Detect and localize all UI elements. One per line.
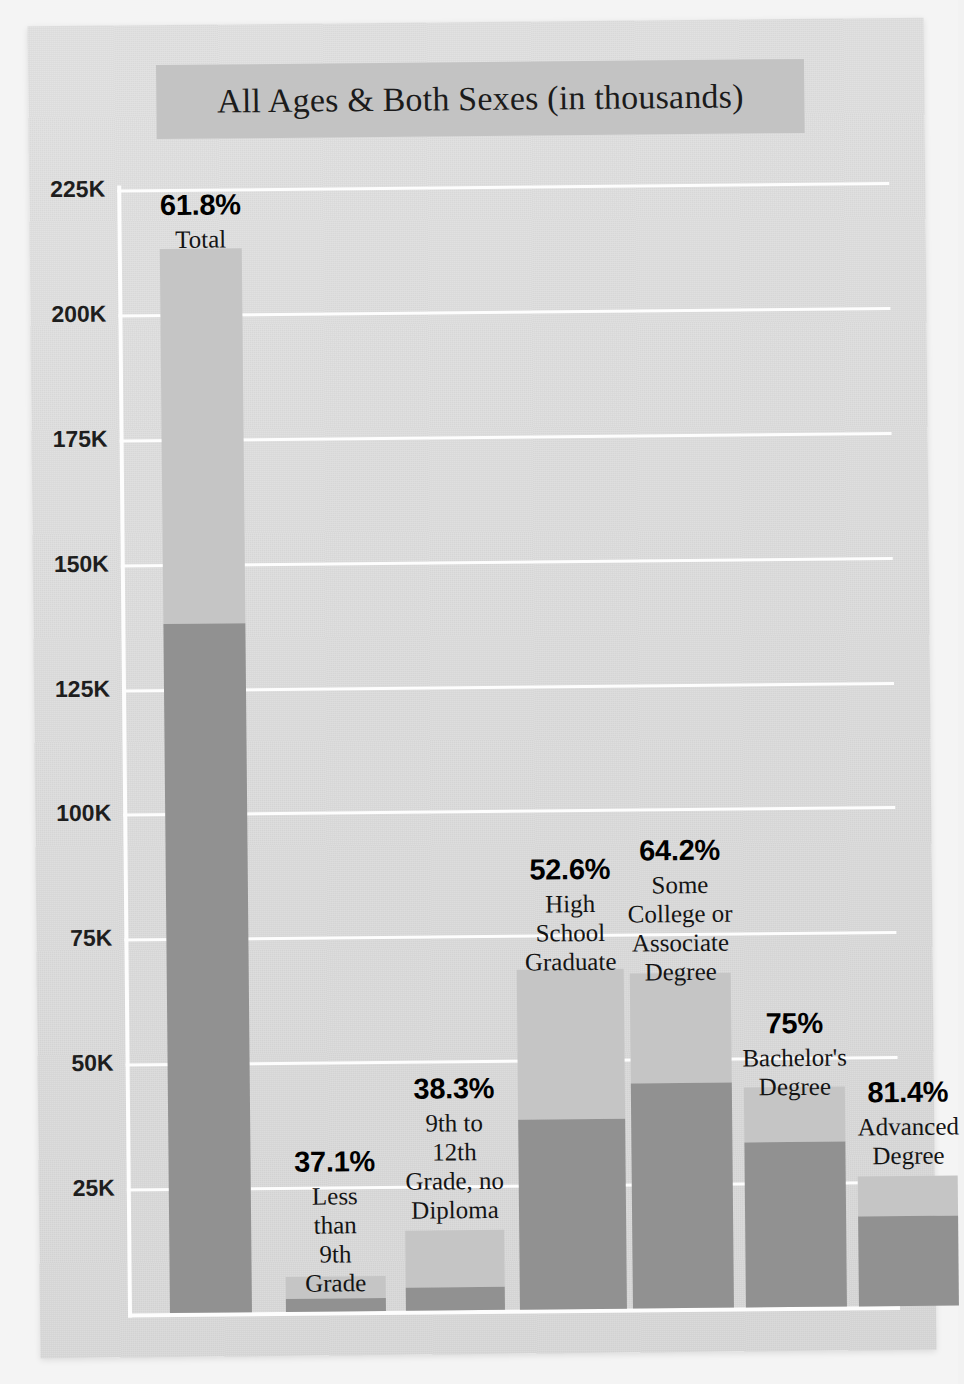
bar-category-label-line: High (475, 888, 665, 919)
bar-annotation: 64.2%SomeCollege orAssociateDegree (584, 833, 775, 986)
bar-category-label-line: Some (585, 869, 775, 900)
bar-9th-to-12th-grade-no-diploma[interactable] (405, 1230, 505, 1311)
bar-segment-lower (744, 1142, 847, 1308)
y-axis-tick-label: 150K (0, 550, 109, 578)
bar-segment-lower (163, 623, 252, 1313)
bar-segment-upper (286, 1276, 386, 1299)
gridlines (117, 178, 889, 185)
bar-segment-upper (744, 1087, 846, 1143)
bar-percent-label: 61.8% (105, 188, 295, 223)
bar-segment-upper (405, 1230, 505, 1288)
bar-category-label-line: than (240, 1209, 430, 1240)
bar-segment-lower (858, 1216, 959, 1307)
y-axis-line (117, 185, 132, 1317)
bar-annotation: 37.1%Lessthan9thGrade (239, 1145, 430, 1298)
y-axis-tick-label: 200K (0, 300, 107, 328)
bar-annotation: 52.6%HighSchoolGraduate (475, 852, 666, 976)
bar-segment-lower (286, 1298, 386, 1312)
bar-category-label-line: College or (585, 898, 775, 929)
plot-area: 25K50K75K100K125K150K175K200K225K 61.8%T… (117, 178, 900, 1317)
y-axis-tick-label: 175K (0, 425, 108, 453)
bar-bachelor-s-degree[interactable] (744, 1087, 847, 1308)
y-axis-tick-label: 25K (5, 1175, 115, 1203)
bar-category-label-line: Less (240, 1180, 430, 1211)
bar-category-label-line: 9th (240, 1238, 430, 1269)
bar-annotation: 61.8%Total (105, 188, 296, 254)
y-axis-tick-label: 75K (2, 925, 112, 953)
bar-segment-upper (630, 973, 732, 1084)
y-axis-tick-label: 225K (0, 176, 105, 204)
bar-category-label-line: Associate (585, 927, 775, 958)
page-title: All Ages & Both Sexes (in thousands) (217, 77, 744, 120)
bar-segment-lower (518, 1119, 627, 1310)
gridline (117, 182, 889, 192)
bar-segment-upper (517, 969, 625, 1120)
bar-high-school-graduate[interactable] (517, 969, 627, 1310)
bar-total[interactable] (160, 248, 252, 1313)
bar-percent-label: 52.6% (475, 852, 665, 887)
bar-segment-upper (858, 1176, 958, 1217)
bar-segment-lower (631, 1083, 734, 1309)
y-axis-tick-label: 50K (3, 1050, 113, 1078)
bar-percent-label: 37.1% (239, 1145, 429, 1180)
chart-card: All Ages & Both Sexes (in thousands) 25K… (28, 18, 937, 1359)
chart-title-banner: All Ages & Both Sexes (in thousands) (156, 59, 805, 139)
bar-percent-label: 64.2% (584, 833, 774, 868)
bar-some-college-or-associate-degree[interactable] (630, 973, 734, 1309)
bar-advanced-degree[interactable] (858, 1176, 959, 1307)
bar-segment-upper (160, 248, 246, 623)
bar-segment-lower (406, 1287, 505, 1311)
y-axis-tick-label: 125K (0, 675, 110, 703)
y-axis-tick-label: 100K (1, 800, 111, 828)
bar-less-than-9th-grade[interactable] (286, 1276, 386, 1312)
bar-category-label-line: School (475, 917, 665, 948)
